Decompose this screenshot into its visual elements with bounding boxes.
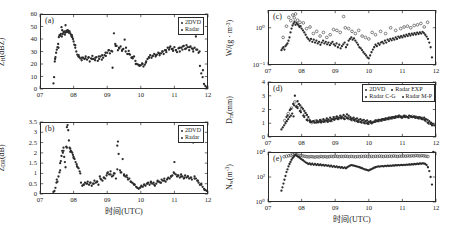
legend-item-radar-c-g[interactable]: Radar C-G <box>365 93 395 100</box>
y-tick-label-b: 3 <box>14 128 37 135</box>
legend-item-2dvd[interactable]: 2DVD <box>181 127 201 134</box>
legend-marker-icon <box>181 22 183 24</box>
legend-item-radar-m-p[interactable]: Radar M-P <box>402 93 433 100</box>
x-tick-label-e: 12 <box>427 204 445 211</box>
x-tick-label-e: 09 <box>326 204 344 211</box>
y-tick-label-b: 0.5 <box>14 180 37 187</box>
legend-row: 2DVD <box>181 127 201 134</box>
legend-row: 2DVDRadar EXP <box>365 86 432 93</box>
legend-item-radar-exp[interactable]: Radar EXP <box>391 86 422 93</box>
legend-item-2dvd[interactable]: 2DVD <box>365 86 385 93</box>
legend-a[interactable]: 2DVDRadar <box>178 17 204 35</box>
legend-item-radar[interactable]: Radar <box>181 26 199 33</box>
legend-marker-icon <box>181 130 183 132</box>
x-tick-label-b: 11 <box>165 196 183 203</box>
x-tick-label-e: 11 <box>393 204 411 211</box>
x-tick-label-b: 09 <box>98 196 116 203</box>
y-axis-label-a: ZH(dBZ) <box>0 37 6 65</box>
x-tick-label-a: 10 <box>132 91 150 98</box>
y-tick-label-d: 2 <box>242 106 265 113</box>
y-tick-label-b: 2.5 <box>14 139 37 146</box>
x-tick-label-a: 09 <box>98 91 116 98</box>
x-tick-label-a: 08 <box>65 91 83 98</box>
legend-marker-icon <box>402 96 404 98</box>
data-layer-e <box>268 152 436 202</box>
y-tick-label-a: 50 <box>14 23 37 30</box>
x-tick-label-c: 07 <box>259 67 277 74</box>
figure-root: (a)0102030405060070809101112ZH(dBZ)2DVDR… <box>0 0 449 227</box>
y-tick-label-b: 2 <box>14 149 37 156</box>
legend-row: Radar C-GRadar M-P <box>365 93 432 100</box>
x-tick-label-b: 08 <box>65 196 83 203</box>
x-tick-label-b: 10 <box>132 196 150 203</box>
y-tick-label-d: 3 <box>242 92 265 99</box>
x-tick-label-d: 10 <box>360 139 378 146</box>
y-tick-label-c: 10⁰ <box>242 24 265 32</box>
x-tick-label-d: 07 <box>259 139 277 146</box>
legend-label: Radar <box>185 134 199 141</box>
y-tick-label-e: 10⁴ <box>242 148 265 155</box>
legend-marker-icon <box>365 89 367 91</box>
x-axis-label-b: 时间(UTC) <box>40 205 208 216</box>
panel-d: (d)01234070809101112Dm(mm)2DVDRadar EXPR… <box>268 82 436 137</box>
x-tick-label-a: 11 <box>165 91 183 98</box>
legend-label: Radar <box>185 26 199 33</box>
legend-marker-icon <box>391 89 393 91</box>
x-tick-label-d: 09 <box>326 139 344 146</box>
legend-item-radar[interactable]: Radar <box>181 134 199 141</box>
x-tick-label-c: 12 <box>427 67 445 74</box>
y-tick-label-d: 4 <box>242 78 265 85</box>
y-tick-label-e: 10² <box>242 173 265 180</box>
legend-item-2dvd[interactable]: 2DVD <box>181 19 201 26</box>
panel-tag-b: (b) <box>45 124 54 133</box>
x-tick-label-b: 12 <box>199 196 217 203</box>
y-tick-label-a: 60 <box>14 10 37 17</box>
panel-tag-c: (c) <box>273 12 282 21</box>
x-tick-label-e: 07 <box>259 204 277 211</box>
y-axis-label-d: Dm(mm) <box>226 96 234 124</box>
x-tick-label-c: 11 <box>393 67 411 74</box>
y-tick-label-b: 3.5 <box>14 118 37 125</box>
y-axis-label-c: W/(g · m-3) <box>226 19 234 56</box>
x-tick-label-e: 10 <box>360 204 378 211</box>
panel-c: (c)10⁰10⁻¹070809101112W/(g · m-3) <box>268 10 436 65</box>
panel-b: (b)00.511.522.533.5070809101112ZDR(dB)时间… <box>40 122 208 194</box>
legend-label: 2DVD <box>369 86 385 93</box>
legend-label: Radar M-P <box>406 93 433 100</box>
legend-label: Radar C-G <box>369 93 395 100</box>
legend-b[interactable]: 2DVDRadar <box>178 125 204 143</box>
legend-row: Radar <box>181 26 201 33</box>
panel-tag-a: (a) <box>45 16 54 25</box>
x-tick-label-d: 12 <box>427 139 445 146</box>
legend-marker-icon <box>365 96 367 98</box>
y-axis-label-b: ZDR(dB) <box>0 144 6 171</box>
y-tick-label-b: 1 <box>14 169 37 176</box>
panel-tag-d: (d) <box>273 84 282 93</box>
panel-a: (a)0102030405060070809101112ZH(dBZ)2DVDR… <box>40 14 208 89</box>
x-tick-label-d: 11 <box>393 139 411 146</box>
y-axis-label-e: Nw(m-3) <box>225 164 234 190</box>
y-tick-label-a: 30 <box>14 48 37 55</box>
legend-row: Radar <box>181 134 201 141</box>
panel-tag-e: (e) <box>273 154 282 163</box>
y-tick-label-a: 40 <box>14 35 37 42</box>
data-layer-c <box>268 10 436 65</box>
x-tick-label-b: 07 <box>31 196 49 203</box>
x-tick-label-e: 08 <box>293 204 311 211</box>
x-axis-label-e: 时间(UTC) <box>268 213 436 224</box>
y-tick-label-d: 1 <box>242 119 265 126</box>
legend-row: 2DVD <box>181 19 201 26</box>
x-tick-label-c: 10 <box>360 67 378 74</box>
legend-label: 2DVD <box>185 127 201 134</box>
x-tick-label-d: 08 <box>293 139 311 146</box>
x-tick-label-c: 08 <box>293 67 311 74</box>
y-tick-label-a: 20 <box>14 60 37 67</box>
legend-marker-icon <box>181 137 183 139</box>
legend-label: 2DVD <box>185 19 201 26</box>
panel-e: (e)10⁴10²10⁰070809101112Nw(m-3)时间(UTC) <box>268 152 436 202</box>
y-tick-label-a: 10 <box>14 73 37 80</box>
legend-label: Radar EXP <box>395 86 422 93</box>
legend-d[interactable]: 2DVDRadar EXPRadar C-GRadar M-P <box>362 84 435 102</box>
y-tick-label-b: 1.5 <box>14 159 37 166</box>
x-tick-label-c: 09 <box>326 67 344 74</box>
